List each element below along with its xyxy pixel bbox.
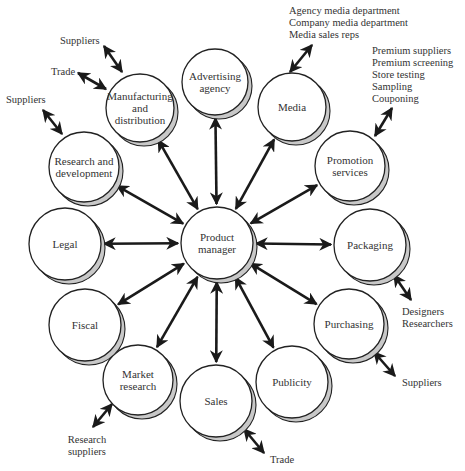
node-label: research: [120, 380, 157, 392]
arrow-rd-external: [43, 110, 62, 134]
node-label: and: [132, 102, 148, 114]
node-promotion-services: Promotionservices: [315, 131, 389, 205]
arrow-product-manager-advertising-agency: [215, 118, 216, 204]
external-label-line: Agency media department: [289, 5, 400, 16]
external-label-promotion-external: Premium suppliersPremium screeningStore …: [372, 45, 454, 104]
external-label-line: Researchers: [402, 318, 453, 329]
diagram-canvas: AdvertisingagencyMediaPromotionservicesP…: [0, 0, 465, 471]
node-label: Market: [122, 368, 154, 380]
node-label: distribution: [115, 114, 166, 126]
node-sales: Sales: [180, 365, 256, 441]
arrow-promotion-external: [375, 108, 392, 136]
node-label: manager: [198, 243, 236, 255]
arrow-sales-external: [244, 429, 264, 453]
arrow-product-manager-market-research: [157, 277, 198, 347]
node-fiscal: Fiscal: [49, 289, 125, 365]
node-label: Advertising: [189, 70, 241, 82]
external-label-line: Couponing: [372, 93, 419, 104]
node-label: Fiscal: [72, 319, 98, 331]
arrow-media-external: [290, 45, 312, 72]
node-publicity: Publicity: [256, 346, 332, 422]
node-label: Publicity: [272, 376, 312, 388]
external-label-line: Store testing: [372, 69, 426, 80]
node-label: Promotion: [327, 154, 374, 166]
node-research-and-development: Research anddevelopment: [49, 132, 123, 206]
external-label-line: Company media department: [289, 17, 408, 28]
node-label: services: [332, 166, 367, 178]
arrow-manufacturing-trade: [78, 73, 106, 89]
arrow-manufacturing-suppliers: [104, 46, 122, 72]
arrow-product-manager-fiscal: [118, 264, 184, 305]
node-label: Research and: [55, 155, 114, 167]
node-label: Manufacturing: [107, 90, 173, 102]
node-label: Sales: [204, 395, 227, 407]
node-label: Packaging: [347, 239, 393, 251]
arrow-purchasing-external: [374, 352, 395, 376]
node-legal: Legal: [29, 208, 105, 284]
node-media: Media: [258, 73, 330, 145]
arrow-market-research-external: [93, 404, 112, 427]
arrow-packaging-external: [394, 275, 411, 300]
external-label-line: Suppliers: [60, 35, 100, 46]
external-label-sales-external: Trade: [270, 454, 294, 465]
node-market-research: Marketresearch: [103, 345, 177, 419]
node-advertising-agency: Advertisingagency: [182, 49, 252, 119]
node-label: Product: [200, 231, 234, 243]
external-label-line: Research: [68, 434, 107, 445]
external-label-rd-external: Suppliers: [6, 94, 46, 105]
node-label: Legal: [52, 238, 77, 250]
external-label-manufacturing-trade: Trade: [51, 66, 75, 77]
external-label-line: Designers: [402, 306, 444, 317]
external-label-purchasing-external: Suppliers: [402, 377, 442, 388]
node-label: Purchasing: [325, 318, 374, 330]
external-label-line: Trade: [51, 66, 75, 77]
external-label-packaging-external: DesignersResearchers: [402, 306, 453, 329]
nodes: AdvertisingagencyMediaPromotionservicesP…: [29, 49, 410, 441]
node-purchasing: Purchasing: [314, 289, 388, 363]
arrow-product-manager-manufacturing-and-distribution: [158, 140, 197, 209]
arrow-product-manager-packaging: [256, 244, 331, 245]
external-label-line: Suppliers: [402, 377, 442, 388]
external-label-line: Sampling: [372, 81, 413, 92]
node-label: agency: [199, 82, 231, 94]
external-label-market-research-external: Researchsuppliers: [68, 434, 107, 457]
arrow-product-manager-promotion-services: [251, 185, 317, 223]
node-label: development: [56, 167, 113, 179]
external-label-line: Trade: [270, 454, 294, 465]
external-label-media-external: Agency media departmentCompany media dep…: [289, 5, 408, 40]
product-manager-relationship-diagram: AdvertisingagencyMediaPromotionservicesP…: [0, 0, 465, 471]
external-label-line: Suppliers: [6, 94, 46, 105]
external-label-line: suppliers: [68, 446, 106, 457]
node-product-manager: Productmanager: [181, 207, 257, 283]
node-manufacturing-and-distribution: Manufacturinganddistribution: [106, 74, 178, 146]
node-label: Media: [278, 101, 306, 113]
external-label-line: Media sales reps: [289, 29, 359, 40]
arrow-product-manager-publicity: [236, 277, 274, 347]
external-label-line: Premium screening: [372, 57, 454, 68]
arrow-product-manager-media: [236, 139, 274, 208]
external-label-manufacturing-suppliers: Suppliers: [60, 35, 100, 46]
node-packaging: Packaging: [334, 209, 410, 285]
arrow-product-manager-sales: [216, 282, 217, 362]
arrow-product-manager-purchasing: [250, 263, 316, 304]
external-label-line: Premium suppliers: [372, 45, 451, 56]
arrow-product-manager-research-and-development: [117, 186, 183, 224]
